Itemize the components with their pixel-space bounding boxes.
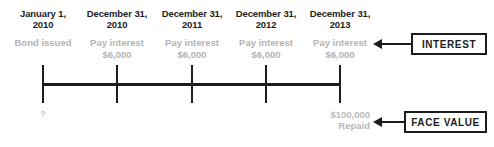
callout-face-value: FACE VALUE [404,111,487,133]
bond-timeline-diagram: January 1, 2010 Bond issued December 31,… [0,0,494,147]
timeline-tick-2 [191,65,193,103]
event-date-line1-1: December 31, [87,8,148,19]
face-value-amount: $100,000 [330,109,370,120]
event-date-line1-2: December 31, [162,8,223,19]
event-note-amount-4: $6,000 [294,49,386,60]
timeline-tick-4 [339,65,341,103]
face-value-label: $100,000 Repaid [300,109,370,131]
timeline-tick-3 [265,65,267,103]
timeline-tick-0 [42,65,44,103]
event-date-4: December 31, 2013 [294,8,386,30]
timeline-event-4: December 31, 2013 Pay interest $6,000 [294,8,386,60]
callout-interest: INTEREST [411,33,487,55]
face-value-arrow-shaft [382,121,404,123]
event-date-line1-0: January 1, [20,8,66,19]
interest-arrow-head-icon [373,39,382,49]
event-note-line1-3: Pay interest [239,37,293,48]
face-value-arrow-head-icon [373,117,382,127]
event-note-line1-4: Pay interest [313,37,367,48]
event-date-line2-4: 2013 [294,19,386,30]
timeline-tick-1 [116,65,118,103]
event-note-line1-1: Pay interest [90,37,144,48]
interest-arrow-shaft [382,43,412,45]
event-date-line1-3: December 31, [236,8,297,19]
event-date-line1-4: December 31, [310,8,371,19]
event-note-line1-0: Bond issued [14,37,71,48]
face-value-status: Repaid [300,120,370,131]
issue-price-unknown-label: ? [40,108,46,119]
event-note-line1-2: Pay interest [165,37,219,48]
